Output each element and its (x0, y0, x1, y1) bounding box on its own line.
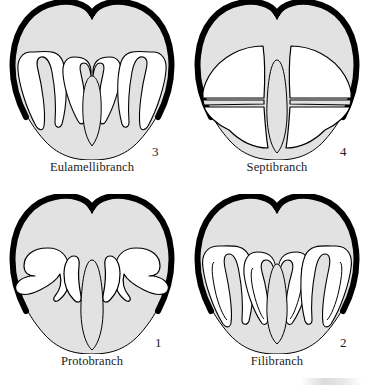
panel-label-eulamellibranch: Eulamellibranch (0, 160, 184, 175)
panel-protobranch: Protobranch 1 (0, 194, 184, 387)
panel-number-eulamellibranch: 3 (152, 144, 159, 160)
eulamellibranch-diagram (0, 0, 184, 160)
filibranch-diagram (185, 194, 369, 354)
panel-filibranch: Filibranch 2 (185, 194, 369, 387)
visceral-mass-foot (81, 260, 103, 350)
septum-right (290, 100, 351, 105)
figure-root: Eulamellibranch 3 Septibranch 4 (0, 0, 369, 387)
panel-label-protobranch: Protobranch (0, 354, 184, 369)
panel-label-filibranch: Filibranch (185, 354, 369, 369)
panel-number-protobranch: 1 (155, 335, 162, 351)
septibranch-diagram (185, 0, 369, 160)
panel-number-filibranch: 2 (340, 335, 347, 351)
panel-label-septibranch: Septibranch (185, 160, 369, 175)
panel-eulamellibranch: Eulamellibranch 3 (0, 0, 184, 193)
visceral-mass-foot (267, 60, 287, 153)
panel-septibranch: Septibranch 4 (185, 0, 369, 193)
septum-left (203, 100, 264, 105)
panel-number-septibranch: 4 (340, 144, 347, 160)
protobranch-diagram (0, 194, 184, 354)
